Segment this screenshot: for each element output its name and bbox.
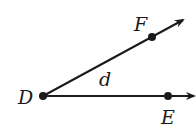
point-e (164, 92, 172, 100)
angle-label: d (99, 68, 111, 90)
label-f: F (133, 13, 148, 35)
label-d-vertex: D (17, 86, 33, 108)
point-f (148, 33, 156, 41)
angle-diagram: D F E d (0, 0, 196, 134)
label-e: E (160, 106, 175, 128)
ray-df (43, 20, 183, 96)
point-d (39, 92, 47, 100)
